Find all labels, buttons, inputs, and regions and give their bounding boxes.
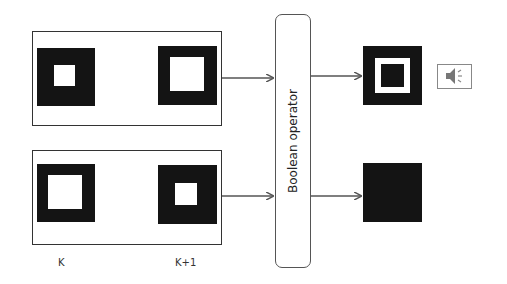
top-output-core [381,64,404,87]
connector-arrows [0,0,507,284]
speaker-icon-box [437,64,472,89]
bottom-output-square [363,163,422,222]
speaker-icon [438,65,470,87]
